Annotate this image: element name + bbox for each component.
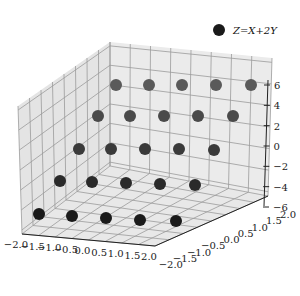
x-tick-label: 1.0 (108, 248, 124, 259)
legend-label: Z=X+2Y (232, 25, 278, 36)
data-point (134, 214, 146, 226)
z-tick-label: −2 (273, 161, 288, 172)
z-tick-label: 2 (274, 121, 280, 132)
data-point (110, 79, 122, 91)
data-point (33, 208, 45, 220)
data-point (86, 176, 98, 188)
data-point (54, 175, 66, 187)
data-point (73, 143, 85, 155)
x-tick-label: 1.5 (124, 250, 140, 261)
data-point (170, 215, 182, 227)
legend-marker-icon (213, 24, 225, 36)
z-tick-label: 0 (274, 141, 280, 152)
z-tick-label: 6 (274, 80, 280, 91)
data-point (173, 143, 185, 155)
data-point (120, 177, 132, 189)
data-point (192, 110, 204, 122)
data-point (189, 179, 201, 191)
data-point (92, 110, 104, 122)
z-tick-label: −4 (273, 182, 288, 193)
data-point (105, 143, 117, 155)
chart-3d-scatter: −2.0−1.5−1.0−0.50.00.51.01.52.0−2.0−1.5−… (0, 0, 300, 296)
data-point (176, 79, 188, 91)
data-point (208, 144, 220, 156)
data-point (158, 110, 170, 122)
data-point (227, 110, 239, 122)
z-tick-label: 4 (274, 100, 280, 111)
z-tick-label: −6 (273, 202, 288, 213)
data-point (154, 178, 166, 190)
data-point (143, 79, 155, 91)
legend: Z=X+2Y (213, 24, 278, 36)
data-point (139, 143, 151, 155)
data-point (210, 79, 222, 91)
x-tick-label: 0.5 (91, 247, 107, 258)
y-tick-label: −0.5 (201, 240, 225, 251)
data-point (66, 210, 78, 222)
x-tick-label: 0.0 (75, 245, 91, 256)
data-point (100, 212, 112, 224)
data-point (245, 79, 257, 91)
data-point (124, 110, 136, 122)
x-tick-label: 2.0 (141, 251, 157, 262)
